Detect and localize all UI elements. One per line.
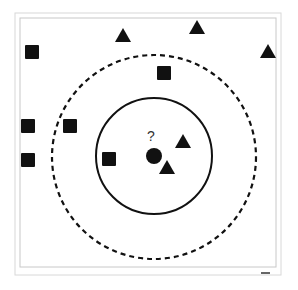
triangle-point bbox=[159, 160, 175, 174]
triangle-point bbox=[175, 134, 191, 148]
square-point bbox=[63, 119, 77, 133]
square-point bbox=[21, 153, 35, 167]
triangle-point bbox=[189, 20, 205, 34]
triangle-point bbox=[115, 28, 131, 42]
outer-frame bbox=[15, 13, 281, 275]
square-point bbox=[102, 152, 116, 166]
query-label: ? bbox=[147, 128, 155, 144]
square-point bbox=[21, 119, 35, 133]
knn-diagram: ? bbox=[0, 0, 298, 290]
triangle-point bbox=[260, 44, 276, 58]
query-point bbox=[146, 148, 162, 164]
square-point bbox=[157, 66, 171, 80]
square-point bbox=[25, 45, 39, 59]
